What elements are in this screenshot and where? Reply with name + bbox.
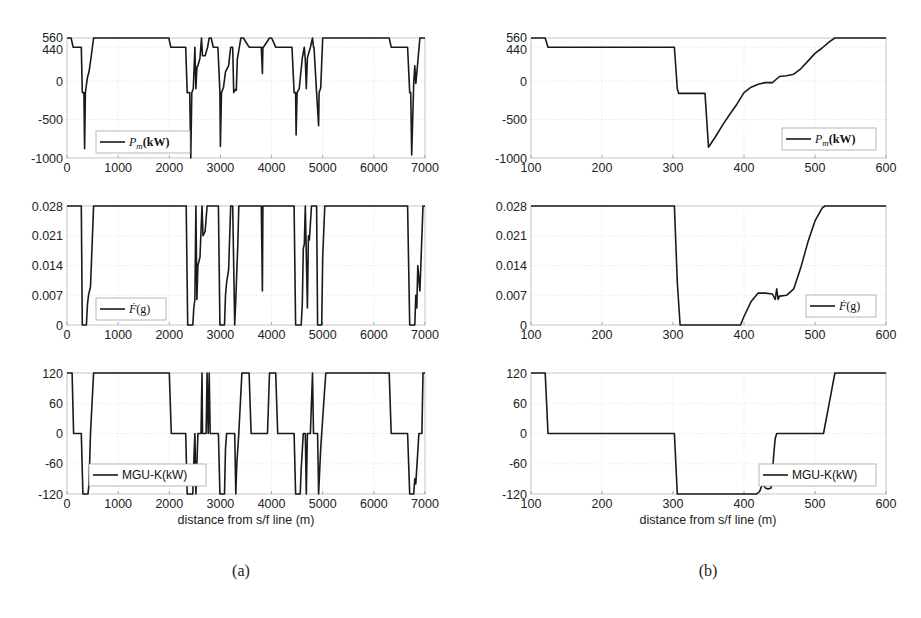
x-tick-label: 600: [876, 328, 897, 342]
x-tick-label: 400: [734, 161, 755, 175]
panel-a-mguk-plot: 01000200030004000500060007000-120-600601…: [38, 367, 439, 512]
y-tick-label: -120: [38, 488, 63, 502]
y-tick-label: 60: [49, 397, 63, 411]
x-tick-label: 0: [64, 497, 71, 511]
y-tick-label: 0: [56, 75, 63, 89]
x-tick-label: 1000: [104, 161, 132, 175]
y-tick-label: 0: [56, 427, 63, 441]
y-tick-label: 440: [42, 43, 63, 57]
x-tick-label: 0: [64, 161, 71, 175]
y-tick-label: 0.007: [496, 289, 527, 303]
panel-b-fdot-plot: 10020030040050060000.0070.0140.0210.028Ḟ…: [496, 200, 897, 343]
y-tick-label: 0: [56, 319, 63, 333]
y-tick-label: 0: [520, 319, 527, 333]
x-tick-label: 300: [663, 161, 684, 175]
x-tick-label: 4000: [258, 328, 286, 342]
figure: 01000200030004000500060007000-1000-50004…: [0, 0, 921, 618]
y-tick-label: 0.021: [32, 229, 63, 243]
legend: MGU-K(kW): [89, 464, 206, 486]
x-tick-label: 400: [734, 497, 755, 511]
x-tick-label: 7000: [411, 497, 439, 511]
x-tick-label: 500: [805, 497, 826, 511]
legend-label: Pm(kW): [128, 135, 170, 151]
x-tick-label: 3000: [207, 328, 235, 342]
y-tick-label: -60: [509, 457, 527, 471]
y-tick-label: 0.014: [496, 259, 527, 273]
panel-a-xlabel: distance from s/f line (m): [178, 513, 315, 527]
x-tick-label: 4000: [258, 161, 286, 175]
x-tick-label: 5000: [309, 497, 337, 511]
legend-label: MGU-K(kW): [792, 468, 857, 482]
x-tick-label: 300: [663, 328, 684, 342]
x-tick-label: 5000: [309, 161, 337, 175]
y-tick-label: 0: [520, 75, 527, 89]
x-tick-label: 2000: [155, 161, 183, 175]
x-tick-label: 5000: [309, 328, 337, 342]
x-tick-label: 3000: [207, 497, 235, 511]
x-tick-label: 200: [592, 161, 613, 175]
panel-b-pm-plot: 100200300400500600-1000-5000440560Pm(kW): [495, 31, 896, 176]
y-tick-label: -1000: [495, 152, 527, 166]
y-tick-label: 0.021: [496, 229, 527, 243]
y-tick-label: 120: [506, 367, 527, 381]
legend: Pm(kW): [96, 131, 190, 153]
x-tick-label: 6000: [360, 497, 388, 511]
panel-b-xlabel: distance from s/f line (m): [640, 513, 777, 527]
y-tick-label: 0.007: [32, 289, 63, 303]
panel-a-pm-plot: 01000200030004000500060007000-1000-50004…: [31, 31, 439, 176]
x-tick-label: 2000: [155, 497, 183, 511]
y-tick-label: -120: [502, 488, 527, 502]
legend: Ḟ(g): [96, 298, 166, 320]
x-tick-label: 4000: [258, 497, 286, 511]
legend: MGU-K(kW): [759, 464, 876, 486]
panel-a-fdot-plot: 0100020003000400050006000700000.0070.014…: [32, 200, 439, 343]
x-tick-label: 200: [592, 328, 613, 342]
x-tick-label: 500: [805, 328, 826, 342]
x-tick-label: 0: [64, 328, 71, 342]
y-tick-label: -1000: [31, 152, 63, 166]
x-tick-label: 7000: [411, 161, 439, 175]
y-tick-label: 0.028: [32, 200, 63, 214]
legend-label: Pm(kW): [814, 132, 856, 148]
panel-b-mguk-plot: 100200300400500600-120-60060120MGU-K(kW): [502, 367, 897, 512]
legend: Pm(kW): [782, 128, 876, 150]
y-tick-label: 120: [42, 367, 63, 381]
x-tick-label: 500: [805, 161, 826, 175]
x-tick-label: 7000: [411, 328, 439, 342]
y-tick-label: 0: [520, 427, 527, 441]
legend-label: Ḟ(g): [128, 302, 150, 316]
x-tick-label: 400: [734, 328, 755, 342]
y-tick-label: -500: [502, 113, 527, 127]
subfigure-label-b: (b): [699, 562, 718, 580]
x-tick-label: 6000: [360, 328, 388, 342]
legend-label: Ḟ(g): [838, 299, 860, 313]
y-tick-label: 440: [506, 43, 527, 57]
x-tick-label: 1000: [104, 328, 132, 342]
y-tick-label: 60: [513, 397, 527, 411]
subfigure-label-a: (a): [232, 562, 250, 580]
y-tick-label: 0.028: [496, 200, 527, 214]
legend-label: MGU-K(kW): [122, 468, 187, 482]
x-tick-label: 600: [876, 497, 897, 511]
y-tick-label: 560: [42, 31, 63, 45]
x-tick-label: 300: [663, 497, 684, 511]
y-tick-label: 0.014: [32, 259, 63, 273]
y-tick-label: 560: [506, 31, 527, 45]
y-tick-label: -500: [38, 113, 63, 127]
x-tick-label: 600: [876, 161, 897, 175]
x-tick-label: 6000: [360, 161, 388, 175]
x-tick-label: 3000: [207, 161, 235, 175]
x-tick-label: 1000: [104, 497, 132, 511]
x-tick-label: 200: [592, 497, 613, 511]
x-tick-label: 2000: [155, 328, 183, 342]
y-tick-label: -60: [45, 457, 63, 471]
legend: Ḟ(g): [806, 295, 876, 317]
